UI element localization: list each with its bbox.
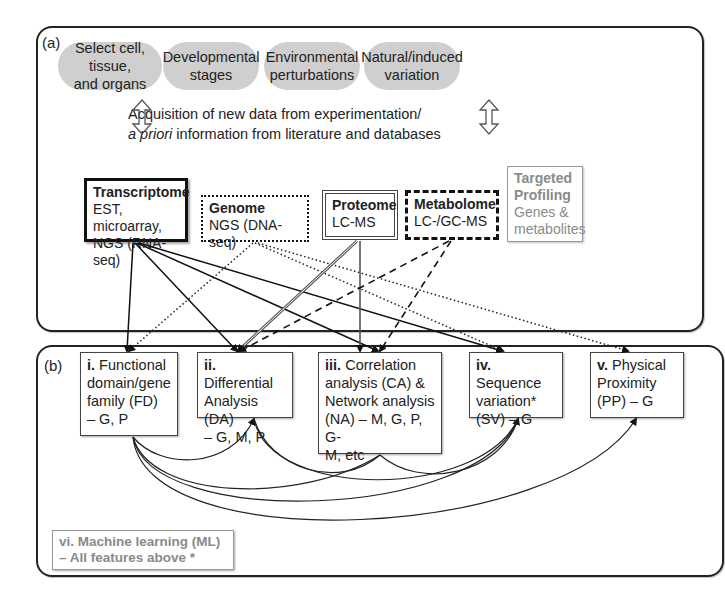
source-line: Select cell, tissue, — [75, 40, 145, 74]
analysis-number: i. — [87, 357, 95, 373]
analysis-line: Sequence — [476, 375, 541, 391]
acquisition-italic: a priori — [128, 126, 172, 142]
omic-title: Proteome — [332, 197, 388, 214]
analysis-line: M, etc — [325, 447, 364, 463]
source-line: stages — [190, 67, 233, 83]
analysis-functional-domain: i. Functional domain/gene family (FD) – … — [80, 352, 178, 436]
analysis-line: Network analysis — [325, 393, 435, 409]
genome-box: Genome NGS (DNA-seq) — [201, 195, 309, 242]
metabolome-box: Metabolome LC-/GC-MS — [405, 190, 499, 240]
omic-line: LC-MS — [332, 214, 376, 230]
source-line: Natural/induced — [361, 49, 463, 65]
panel-b-label: (b) — [44, 357, 62, 374]
machine-learning-box: vi. Machine learning (ML) – All features… — [52, 530, 234, 570]
analysis-number: v. — [597, 357, 608, 373]
proteome-box: Proteome LC-MS — [322, 190, 398, 240]
analysis-line: Differential — [204, 375, 273, 391]
analysis-sequence-variation: iv. Sequence variation* (SV) – G — [469, 352, 563, 418]
analysis-line: family (FD) — [87, 393, 158, 409]
ml-line2: – All features above * — [59, 550, 195, 565]
source-line: Developmental — [163, 49, 260, 65]
analysis-line: analysis (CA) & — [325, 375, 425, 391]
source-environmental: Environmentalperturbations — [264, 42, 360, 90]
omic-title: Targeted — [514, 170, 576, 187]
analysis-line: Correlation — [341, 357, 416, 373]
analysis-line: (PP) – G — [597, 393, 653, 409]
analysis-line: Functional — [95, 357, 166, 373]
ml-line1: vi. Machine learning (ML) — [59, 534, 220, 549]
omic-line: LC-/GC-MS — [414, 213, 487, 229]
source-line: and organs — [74, 76, 147, 92]
analysis-line: variation* — [476, 393, 536, 409]
acquisition-text: Acquisition of new data from experimenta… — [128, 104, 441, 144]
omic-line: NGS (RNA-seq) — [93, 235, 166, 268]
analysis-number: ii. — [204, 357, 216, 373]
analysis-physical-proximity: v. Physical Proximity (PP) – G — [590, 352, 684, 418]
analysis-line: domain/gene — [87, 375, 171, 391]
analysis-correlation-network: iii. Correlation analysis (CA) & Network… — [318, 352, 442, 454]
analysis-line: Proximity — [597, 375, 657, 391]
omic-title: Transcriptome — [93, 184, 179, 201]
analysis-line: – G, M, P — [204, 429, 265, 445]
analysis-line: Physical — [608, 357, 666, 373]
source-natural-variation: Natural/inducedvariation — [364, 42, 460, 90]
omic-title: Metabolome — [414, 196, 490, 213]
omic-line: Genes & — [514, 204, 568, 220]
analysis-line: (NA) – M, G, P, G- — [325, 411, 422, 445]
omic-title: Profiling — [514, 187, 576, 204]
source-line: Environmental — [266, 49, 359, 65]
transcriptome-box: Transcriptome EST, microarray, NGS (RNA-… — [84, 178, 188, 242]
analysis-line: – G, P — [87, 411, 128, 427]
acquisition-line2: information from literature and database… — [172, 126, 440, 142]
source-line: perturbations — [270, 67, 355, 83]
source-cell-tissue: Select cell, tissue,and organs — [58, 42, 162, 90]
source-line: variation — [385, 67, 440, 83]
analysis-differential: ii. Differential Analysis (DA) – G, M, P — [197, 352, 293, 418]
analysis-number: iv. — [476, 357, 491, 373]
analysis-number: iii. — [325, 357, 341, 373]
acquisition-line1: Acquisition of new data from experimenta… — [128, 106, 421, 122]
omic-line: metabolites — [514, 221, 586, 237]
omic-line: EST, microarray, — [93, 201, 162, 234]
source-developmental: Developmentalstages — [163, 42, 259, 90]
omic-title: Genome — [209, 200, 301, 217]
targeted-profiling-box: Targeted Profiling Genes & metabolites — [507, 166, 583, 242]
omic-line: NGS (DNA-seq) — [209, 217, 282, 250]
analysis-line: (SV) – G — [476, 411, 532, 427]
